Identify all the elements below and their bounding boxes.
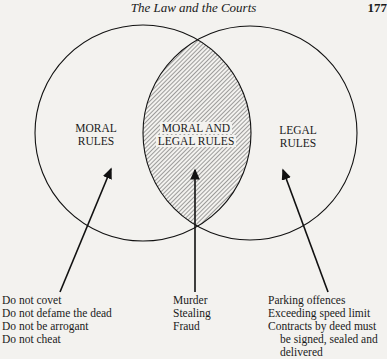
moral-examples-list: Do not covet Do not defame the dead Do n… — [2, 294, 112, 346]
legal-examples-list: Parking offences Exceeding speed limit C… — [268, 294, 378, 359]
arrow-moral — [60, 169, 111, 292]
legal-rules-label: LEGAL RULES — [270, 124, 326, 150]
both-examples-list: Murder Stealing Fraud — [173, 294, 211, 333]
moral-and-legal-rules-label: MORAL AND LEGAL RULES — [153, 122, 239, 148]
moral-rules-label: MORAL RULES — [68, 122, 124, 148]
arrow-legal — [283, 170, 328, 292]
